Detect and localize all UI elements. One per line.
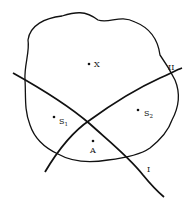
point-X-dot: [88, 63, 91, 66]
point-S2-label: S2: [144, 109, 153, 119]
curve-I-label: I: [147, 165, 150, 174]
point-S2-dot: [137, 109, 140, 112]
region-boundary: [25, 13, 179, 162]
curve-II-label: II: [168, 63, 174, 72]
point-S1-label: S1: [59, 117, 68, 127]
diagram-canvas: X S1 S2 A I II: [0, 0, 188, 207]
curve-I: [13, 73, 164, 197]
curve-II: [45, 68, 182, 172]
point-X-label: X: [94, 60, 100, 69]
point-S1-dot: [53, 116, 56, 119]
point-A-dot: [92, 140, 95, 143]
point-A-label: A: [89, 146, 96, 155]
